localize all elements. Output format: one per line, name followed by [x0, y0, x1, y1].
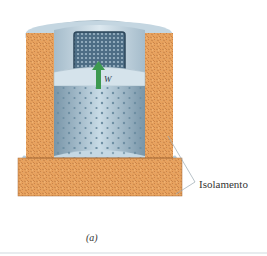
thermodynamics-figure [0, 0, 267, 256]
insulation-right [145, 33, 173, 160]
divider [0, 252, 267, 254]
insulation-label: Isolamento [199, 178, 248, 190]
figure-caption: (a) [86, 232, 98, 243]
insulation-left [26, 33, 54, 160]
insulation-base [18, 158, 182, 196]
weight-label: W [104, 74, 112, 84]
